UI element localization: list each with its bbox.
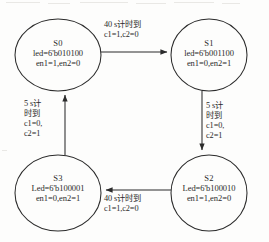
transition-condition-line: c1=1,c2=0 (104, 204, 141, 214)
transition-condition-line: 40 s计时到 (104, 20, 141, 30)
transition-label-s1-s2: 5 s计 时到 c1=0, c2=1 (206, 101, 224, 141)
transition-condition-line: c1=0, (24, 119, 42, 129)
transition-condition-line: 5 s计 (206, 101, 224, 111)
state-node-s3 (15, 155, 101, 231)
transition-condition-line: c2=1 (24, 129, 42, 139)
transition-label-s2-s3: 40 s计时到 c1=1,c2=0 (104, 194, 141, 214)
state-diagram-page: S0 led=6'b010100 en1=1,en2=0 S1 led=6'b0… (0, 0, 269, 242)
transition-label-s3-s0: 5 s计 时到 c1=0, c2=1 (24, 99, 42, 139)
transition-condition-line: 5 s计 (24, 99, 42, 109)
state-node-s0 (15, 19, 101, 91)
transition-condition-line: c2=1 (206, 131, 224, 141)
transition-condition-line: 40 s计时到 (104, 194, 141, 204)
transition-condition-line: c1=0, (206, 121, 224, 131)
transition-condition-line: c1=1,c2=0 (104, 30, 141, 40)
state-node-s2 (171, 155, 247, 231)
transition-label-s0-s1: 40 s计时到 c1=1,c2=0 (104, 20, 141, 40)
transition-condition-line: 时到 (206, 111, 224, 121)
state-node-s1 (171, 19, 247, 91)
transition-condition-line: 时到 (24, 109, 42, 119)
